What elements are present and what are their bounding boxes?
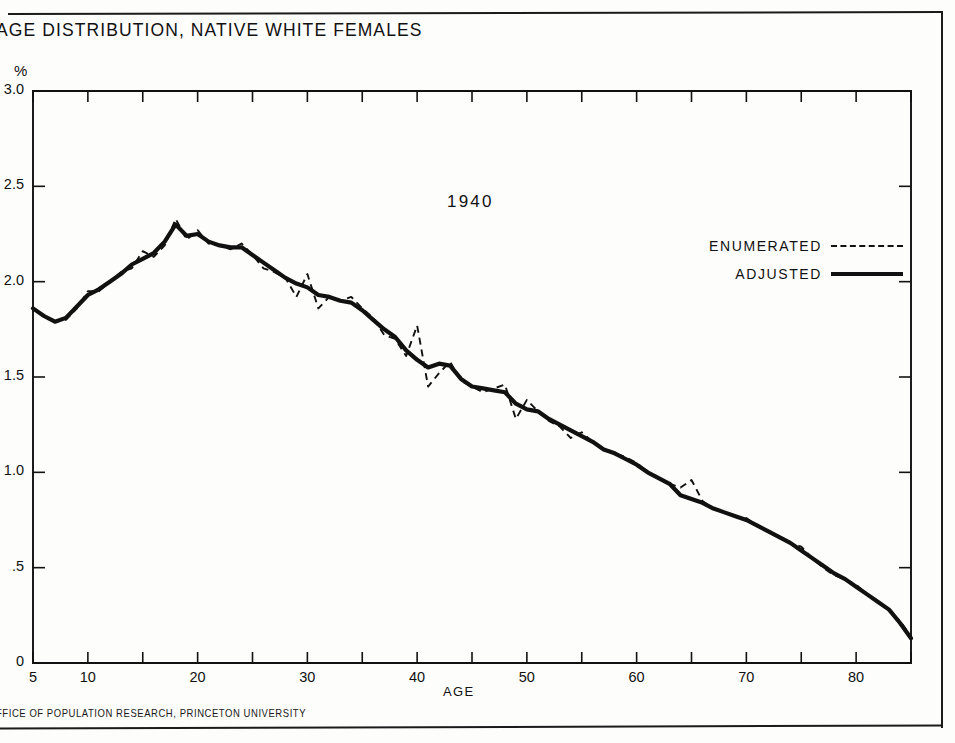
plot-area xyxy=(0,0,955,700)
legend-swatch-solid xyxy=(831,269,903,279)
x-axis-tick-label: 80 xyxy=(836,669,876,685)
footer-credit: FFICE OF POPULATION RESEARCH, PRINCETON … xyxy=(0,707,306,720)
x-axis-tick-label: 70 xyxy=(726,669,766,685)
axis-tick-marks xyxy=(33,91,911,663)
y-axis-tick-label: 2.0 xyxy=(0,272,24,288)
legend-label-enumerated: ENUMERATED xyxy=(709,238,822,254)
chart-svg xyxy=(0,0,955,700)
x-axis-title: AGE xyxy=(443,684,475,699)
year-annotation: 1940 xyxy=(447,192,494,212)
chart-legend: ENUMERATED ADJUSTED xyxy=(618,232,903,288)
legend-item-adjusted: ADJUSTED xyxy=(618,260,903,288)
x-axis-tick-label: 60 xyxy=(617,669,657,685)
y-axis-tick-label: 3.0 xyxy=(0,81,24,97)
y-axis-tick-label: 1.5 xyxy=(0,367,24,383)
legend-label-adjusted: ADJUSTED xyxy=(735,266,822,282)
x-axis-tick-label: 5 xyxy=(13,669,53,685)
x-axis-tick-label: 30 xyxy=(287,669,327,685)
y-axis-tick-label: 2.5 xyxy=(0,176,24,192)
chart-page: AGE DISTRIBUTION, NATIVE WHITE FEMALES %… xyxy=(0,0,955,743)
y-axis-tick-label: 1.0 xyxy=(0,462,24,478)
x-axis-tick-label: 40 xyxy=(397,669,437,685)
page-border-bottom xyxy=(0,725,943,730)
x-axis-tick-label: 20 xyxy=(178,669,218,685)
legend-swatch-dashed xyxy=(831,241,903,251)
axis-frame xyxy=(33,91,911,663)
legend-item-enumerated: ENUMERATED xyxy=(618,232,903,260)
y-axis-tick-label: .5 xyxy=(0,558,24,574)
y-axis-tick-label: 0 xyxy=(0,653,24,669)
x-axis-tick-label: 50 xyxy=(507,669,547,685)
x-axis-tick-label: 10 xyxy=(68,669,108,685)
